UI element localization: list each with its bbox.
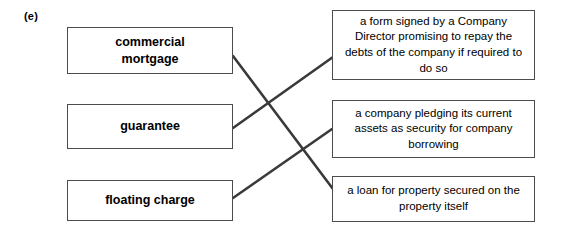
matching-exercise-diagram: (e) commercialmortgage guarantee floatin…: [0, 0, 563, 229]
right-definition-commercial-mortgage[interactable]: a loan for property secured on the prope…: [332, 176, 535, 222]
connector-line-0[interactable]: [233, 56, 336, 193]
right-definition-guarantee[interactable]: a form signed by a Company Director prom…: [332, 10, 535, 80]
connector-line-2[interactable]: [233, 129, 332, 198]
left-term-commercial-mortgage[interactable]: commercialmortgage: [67, 27, 233, 74]
left-term-floating-charge[interactable]: floating charge: [67, 180, 233, 221]
right-definition-label-1: a company pledging its current assets as…: [341, 106, 526, 153]
right-definition-floating-charge[interactable]: a company pledging its current assets as…: [332, 100, 535, 158]
left-term-guarantee[interactable]: guarantee: [67, 104, 233, 149]
left-term-label-0: commercialmortgage: [68, 34, 232, 67]
right-definition-label-0: a form signed by a Company Director prom…: [341, 14, 526, 77]
left-term-label-2: floating charge: [68, 192, 232, 209]
left-term-label-1: guarantee: [68, 118, 232, 135]
connector-line-1[interactable]: [233, 57, 333, 128]
right-definition-label-2: a loan for property secured on the prope…: [341, 183, 526, 214]
